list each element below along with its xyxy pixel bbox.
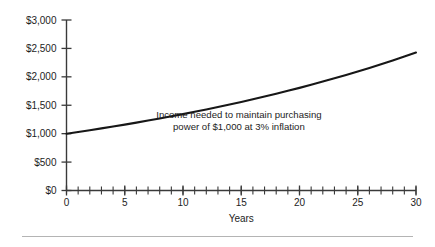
annotation-line-2: power of $1,000 at 3% inflation (173, 121, 305, 132)
x-tick-label: 15 (236, 197, 248, 208)
chart-figure: $0$500$1,000$1,500$2,000$2,500$3,000 051… (0, 0, 435, 247)
x-tick-label: 5 (122, 197, 128, 208)
inflation-line-chart: $0$500$1,000$1,500$2,000$2,500$3,000 051… (0, 0, 435, 247)
y-axis-group: $0$500$1,000$1,500$2,000$2,500$3,000 (26, 15, 72, 197)
x-tick-label: 25 (352, 197, 364, 208)
y-tick-label: $2,000 (26, 71, 57, 82)
footer-divider (22, 236, 413, 237)
annotation-group: Income needed to maintain purchasing pow… (156, 109, 321, 132)
x-axis-group: 051015202530 Years (64, 186, 422, 224)
x-tick-label: 30 (410, 197, 422, 208)
x-tick-label: 10 (177, 197, 189, 208)
y-tick-label: $1,000 (26, 128, 57, 139)
annotation-line-1: Income needed to maintain purchasing (156, 109, 321, 120)
x-tick-label: 20 (294, 197, 306, 208)
y-tick-label: $1,500 (26, 100, 57, 111)
y-tick-label: $3,000 (26, 15, 57, 26)
y-axis-tick-labels: $0$500$1,000$1,500$2,000$2,500$3,000 (26, 15, 57, 197)
x-axis-title: Years (229, 213, 254, 224)
y-tick-label: $0 (45, 185, 57, 196)
x-axis-tick-labels: 051015202530 (64, 197, 422, 208)
y-tick-label: $2,500 (26, 43, 57, 54)
x-tick-label: 0 (64, 197, 70, 208)
y-tick-label: $500 (34, 157, 57, 168)
